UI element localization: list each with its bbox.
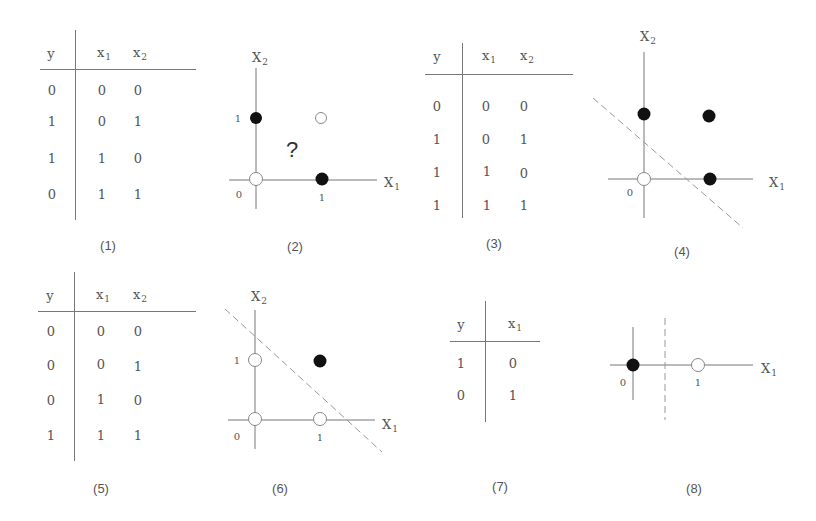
plot-2-point-0-1-solid xyxy=(250,112,262,124)
plot-4-point-1-0-solid xyxy=(704,173,717,186)
plot-2-point-1-0-solid xyxy=(316,173,329,186)
plot-4-dashed-separator xyxy=(593,98,743,228)
plot-4-x-label: X1 xyxy=(769,175,785,192)
caption-8: (8) xyxy=(686,481,702,496)
plot-4-point-0-1-solid xyxy=(638,108,651,121)
plot-4-tick-origin: 0 xyxy=(627,187,633,198)
plot-6-tick-origin: 0 xyxy=(234,431,240,442)
plot-4 xyxy=(593,52,753,228)
plot-8-tick-origin: 0 xyxy=(620,377,626,388)
plot-8-tick-x: 1 xyxy=(695,377,701,388)
plot-8 xyxy=(610,318,753,420)
plot-6-point-0-0-hollow xyxy=(249,413,262,426)
plot-6-point-1-0-hollow xyxy=(314,413,327,426)
plot-6-point-1-1-solid xyxy=(314,355,327,368)
plot-6-point-0-1-hollow xyxy=(249,354,262,367)
plot-6-dashed-separator xyxy=(225,309,382,452)
plot-6-x-label: X1 xyxy=(382,417,398,434)
plot-2-tick-y: 1 xyxy=(235,113,241,124)
plot-6-tick-x: 1 xyxy=(317,432,323,443)
plot-6-tick-y: 1 xyxy=(234,355,240,366)
plot-6 xyxy=(225,309,382,452)
caption-4: (4) xyxy=(674,244,690,259)
plot-2-y-label: X2 xyxy=(252,50,268,67)
plot-8-x-label: X1 xyxy=(761,361,777,378)
plot-2-point-0-0-hollow xyxy=(250,173,263,186)
plot-2-tick-origin: 0 xyxy=(236,189,242,200)
plot-2 xyxy=(229,68,377,209)
plot-6-y-label: X2 xyxy=(251,289,267,306)
plot-4-point-0-0-hollow xyxy=(638,173,651,186)
plots-canvas xyxy=(0,0,816,521)
plot-2-tick-x: 1 xyxy=(319,192,325,203)
plot-2-question-mark: ? xyxy=(286,137,298,163)
plot-8-point-1-hollow xyxy=(692,359,705,372)
plot-8-point-0-solid xyxy=(627,359,640,372)
caption-6: (6) xyxy=(272,481,288,496)
caption-2: (2) xyxy=(287,239,303,254)
plot-2-x-label: X1 xyxy=(384,175,400,192)
plot-2-point-1-1-hollow xyxy=(316,113,327,124)
plot-4-point-1-1-solid xyxy=(703,110,716,123)
plot-4-y-label: X2 xyxy=(640,29,656,46)
